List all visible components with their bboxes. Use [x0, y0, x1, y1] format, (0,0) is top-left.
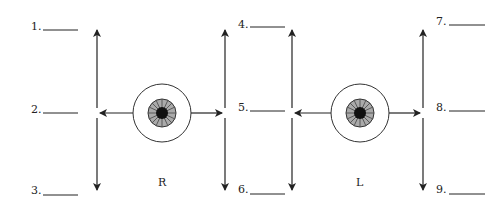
blank-label-4: 4. — [238, 18, 249, 31]
blank-label-6: 6. — [238, 183, 249, 196]
eye-movement-diagram — [0, 0, 501, 209]
blank-label-8: 8. — [436, 101, 447, 114]
blank-label-3: 3. — [31, 184, 42, 197]
blank-label-5: 5. — [238, 101, 249, 114]
blank-label-9: 9. — [436, 183, 447, 196]
right-eye-label: R — [158, 176, 166, 189]
blank-label-1: 1. — [31, 20, 42, 33]
answer-blank-lines — [43, 25, 485, 195]
blank-label-2: 2. — [31, 103, 42, 116]
right-eye-icon — [133, 84, 191, 142]
left-eye-label: L — [356, 176, 363, 189]
blank-label-7: 7. — [436, 15, 447, 28]
left-eye-icon — [331, 84, 389, 142]
